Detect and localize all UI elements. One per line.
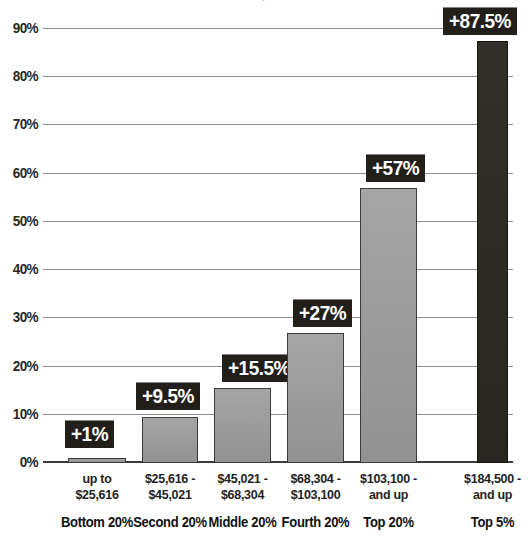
bar-top-5 xyxy=(477,41,508,463)
y-axis-tick-40: 40% xyxy=(0,260,38,277)
gridline-50 xyxy=(43,221,513,222)
x-axis-group-top-5: $184,500 -and upTop 5% xyxy=(450,472,528,530)
bar-middle-20 xyxy=(214,388,271,463)
gridline-70 xyxy=(43,124,513,125)
y-axis-tick-30: 30% xyxy=(0,308,38,325)
value-label-middle-20: +15.5% xyxy=(222,355,296,383)
x-axis-quintile-top-5: Top 5% xyxy=(450,515,528,531)
bar-chart: ↓ 0%10%20%30%40%50%60%70%80%90% +1%+9.5%… xyxy=(0,0,528,552)
bar-top-20 xyxy=(360,188,417,463)
gridline-30 xyxy=(43,317,513,318)
y-axis-tick-20: 20% xyxy=(0,357,38,374)
x-axis: up to$25,616Bottom 20%$25,616 -$45,021Se… xyxy=(43,472,513,552)
gridline-10 xyxy=(43,414,513,415)
y-axis-tick-60: 60% xyxy=(0,164,38,181)
x-axis-range-line1-top-20: $103,100 - xyxy=(346,471,432,487)
clipped-title: ↓ xyxy=(0,0,528,1)
x-axis-range-line1-top-5: $184,500 - xyxy=(450,471,528,487)
value-label-bottom-20: +1% xyxy=(65,421,114,449)
x-axis-range-top-20: $103,100 -and up xyxy=(346,471,432,503)
y-axis-tick-90: 90% xyxy=(0,19,38,36)
value-label-top-20: +57% xyxy=(366,155,425,183)
y-axis-tick-0: 0% xyxy=(0,453,38,470)
y-axis-tick-70: 70% xyxy=(0,116,38,133)
y-axis-tick-50: 50% xyxy=(0,212,38,229)
bar-bottom-20 xyxy=(68,458,126,463)
value-label-fourth-20: +27% xyxy=(293,299,352,327)
gridline-40 xyxy=(43,269,513,270)
gridline-80 xyxy=(43,76,513,77)
gridline-60 xyxy=(43,173,513,174)
plot-area: +1%+9.5%+15.5%+27%+57%+87.5% xyxy=(43,29,513,463)
value-label-top-5: +87.5% xyxy=(443,8,517,36)
y-axis-tick-10: 10% xyxy=(0,405,38,422)
value-label-second-20: +9.5% xyxy=(136,383,200,411)
bar-fourth-20 xyxy=(287,333,344,463)
x-axis-range-line2-top-5: and up xyxy=(450,487,528,503)
x-axis-range-top-5: $184,500 -and up xyxy=(450,471,528,503)
x-axis-group-top-20: $103,100 -and upTop 20% xyxy=(346,472,432,530)
x-axis-quintile-top-20: Top 20% xyxy=(346,515,432,531)
x-axis-range-line2-top-20: and up xyxy=(346,487,432,503)
bar-second-20 xyxy=(142,417,198,463)
y-axis-tick-80: 80% xyxy=(0,67,38,84)
